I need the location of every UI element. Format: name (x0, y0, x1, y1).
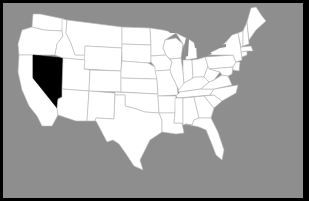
state-ms (174, 98, 183, 125)
state-ar (158, 96, 176, 113)
state-wy (84, 46, 122, 71)
map-canvas (3, 3, 303, 198)
state-sd (122, 44, 151, 63)
state-ma (241, 46, 253, 52)
state-ne (121, 61, 157, 79)
state-az (57, 89, 89, 121)
states-layer (18, 7, 266, 170)
us-states-map (3, 3, 303, 198)
state-nd (122, 27, 151, 45)
map-frame (0, 0, 309, 201)
state-nm (87, 91, 115, 121)
state-me (247, 7, 266, 40)
state-ks (121, 78, 158, 94)
state-co (89, 70, 121, 92)
